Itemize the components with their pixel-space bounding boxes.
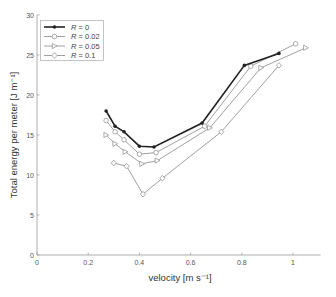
line-chart: 00.20.40.60.81 051015202530 R = 0R = 0.0… xyxy=(0,0,336,297)
triangle-marker xyxy=(259,65,264,70)
circle-marker xyxy=(202,124,207,129)
dot-marker xyxy=(122,130,126,134)
x-ticks: 00.20.40.60.81 xyxy=(35,253,295,267)
series-line xyxy=(106,48,306,164)
x-tick-label: 0 xyxy=(35,259,39,266)
y-tick-label: 5 xyxy=(30,212,34,219)
dot-marker xyxy=(53,25,57,29)
dot-marker xyxy=(243,64,247,68)
legend: R = 0R = 0.02R = 0.05R = 0.1 xyxy=(41,21,104,61)
y-axis-label: Total energy per meter [J m⁻¹] xyxy=(8,72,19,198)
legend-label: R = 0.02 xyxy=(71,32,100,41)
x-tick-label: 0.6 xyxy=(186,259,196,266)
y-tick-label: 25 xyxy=(26,52,34,59)
circle-marker xyxy=(52,34,57,39)
triangle-marker xyxy=(304,45,309,50)
dot-marker xyxy=(200,121,204,125)
circle-marker xyxy=(104,118,109,123)
circle-marker xyxy=(122,138,127,143)
x-tick-label: 0.2 xyxy=(83,259,93,266)
y-tick-label: 30 xyxy=(26,12,34,19)
series-r-0 xyxy=(104,52,280,149)
series-r-0-1 xyxy=(111,63,281,197)
circle-marker xyxy=(154,150,159,155)
x-tick-label: 1 xyxy=(291,259,295,266)
series-line xyxy=(106,44,295,154)
triangle-marker xyxy=(140,161,145,166)
x-tick-label: 0.8 xyxy=(237,259,247,266)
diamond-marker xyxy=(111,160,116,166)
dot-marker xyxy=(113,124,117,128)
y-tick-label: 20 xyxy=(26,92,34,99)
dot-marker xyxy=(152,145,156,149)
y-ticks: 051015202530 xyxy=(26,12,39,259)
legend-label: R = 0.1 xyxy=(71,51,95,60)
dot-marker xyxy=(277,52,281,56)
dot-marker xyxy=(138,144,142,148)
legend-label: R = 0.05 xyxy=(71,42,100,51)
circle-marker xyxy=(137,152,142,157)
y-tick-label: 0 xyxy=(30,252,34,259)
x-axis-label: velocity [m s⁻¹] xyxy=(148,272,211,283)
circle-marker xyxy=(248,64,253,69)
y-tick-label: 10 xyxy=(26,172,34,179)
series-line xyxy=(114,65,279,194)
y-tick-label: 15 xyxy=(26,132,34,139)
diamond-marker xyxy=(124,163,129,169)
legend-label: R = 0 xyxy=(71,23,89,32)
circle-marker xyxy=(113,130,118,135)
x-tick-label: 0.4 xyxy=(135,259,145,266)
series-layer xyxy=(104,42,309,198)
circle-marker xyxy=(293,42,298,47)
dot-marker xyxy=(104,109,108,113)
triangle-marker xyxy=(155,158,160,163)
